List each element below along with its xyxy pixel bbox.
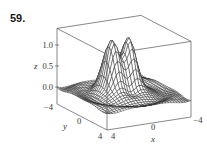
x-tick-label: 4 (111, 131, 116, 141)
y-axis-label: y (62, 121, 67, 131)
box-edge (57, 28, 107, 54)
y-tick-label: 0 (77, 116, 81, 126)
x-axis: 4 0 −4 x (111, 115, 203, 144)
exercise-number: 59. (10, 12, 25, 24)
z-axis: 1.0 0.5 0.0 z (33, 40, 59, 92)
z-tick-label: 1.0 (42, 40, 53, 50)
y-axis: −4 0 4 y (44, 102, 103, 141)
z-tick-label: 0.5 (42, 61, 53, 71)
surface-plot: 59. 1.0 0.5 0.0 z −4 0 4 y 4 0 −4 x (0, 0, 207, 148)
box-edge (141, 15, 191, 41)
surface-mesh (57, 38, 191, 114)
y-tick-label: −4 (44, 102, 54, 112)
x-tick-label: 0 (151, 122, 155, 132)
box-edge (107, 41, 191, 54)
x-tick-label: −4 (193, 115, 203, 125)
box-edge (57, 15, 141, 28)
y-tick-label: 4 (98, 131, 103, 141)
z-tick-label: 0.0 (42, 82, 53, 92)
z-axis-label: z (33, 61, 38, 71)
x-axis-label: x (150, 134, 155, 144)
box-edge (107, 117, 191, 130)
